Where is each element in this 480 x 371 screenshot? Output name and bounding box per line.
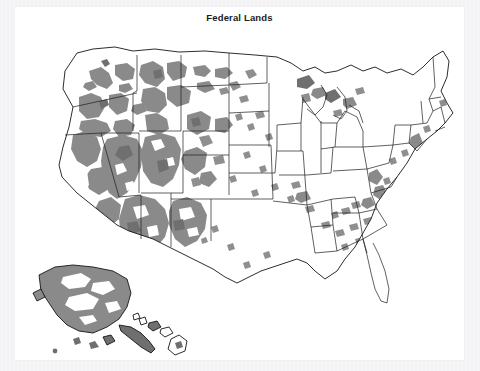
federal-patch-washington — [83, 59, 135, 93]
page-title: Federal Lands — [15, 12, 464, 23]
federal-patch-ozarks — [287, 181, 315, 213]
federal-patch-northeast — [389, 99, 447, 165]
federal-patch-southeast — [321, 211, 389, 251]
federal-patch-utah — [141, 133, 181, 187]
federal-patch-florida — [359, 247, 391, 301]
federal-patch-montana — [193, 65, 257, 95]
federal-patch-colorado — [181, 147, 225, 187]
federal-patch-wyoming — [187, 111, 233, 147]
map-canvas: Federal Lands — [15, 7, 464, 360]
federal-patch-great-lakes — [297, 75, 365, 117]
federal-patch-idaho-montana — [131, 61, 191, 135]
federal-patch-plains — [235, 95, 273, 141]
screenshot-root: Federal Lands — [0, 0, 480, 371]
federal-patch-appalachia — [331, 169, 391, 219]
aleutian-island-dot — [53, 349, 58, 354]
federal-patch-arizona — [119, 195, 169, 255]
federal-patch-texas — [201, 225, 271, 269]
inset-alaska[interactable] — [33, 265, 155, 353]
federal-lands-map[interactable] — [15, 27, 464, 360]
